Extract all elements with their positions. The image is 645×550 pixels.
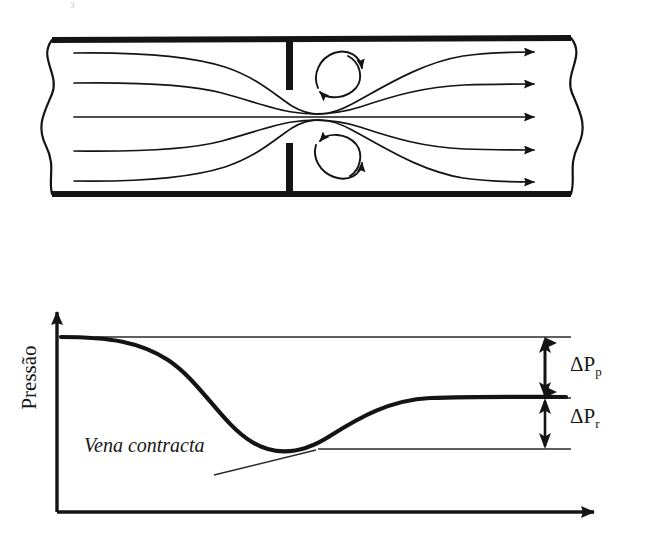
lower-vortex-arc-b	[320, 135, 360, 176]
delta-p-recovered-label: ΔPr	[570, 404, 600, 432]
chart-axes	[57, 312, 594, 512]
lower-recirculation-vortex	[315, 135, 362, 179]
delta-p-permanent-label: ΔPp	[570, 352, 602, 380]
vena-contracta-leader	[214, 450, 316, 475]
pipe-upper-wall	[52, 38, 571, 40]
figure-root: 3	[0, 0, 645, 550]
delta-p-recovered-arrow	[539, 398, 551, 449]
vena-contracta-leader-line	[214, 450, 316, 475]
streamline-2	[74, 83, 534, 114]
pipe-right-break-line	[570, 38, 582, 194]
pipe-left-break-line	[41, 40, 53, 194]
streamline-group	[74, 52, 534, 182]
delta-p-permanent-subscript: p	[595, 364, 602, 379]
orifice-plate-flow-diagram	[0, 0, 645, 260]
upper-vortex-arc-b	[320, 56, 360, 97]
delta-p-recovered-symbol: ΔP	[570, 404, 595, 428]
pressure-profile-chart	[0, 290, 645, 550]
streamline-4	[74, 120, 534, 151]
lower-vortex-arc-a	[315, 145, 362, 179]
upper-recirculation-vortex	[316, 51, 362, 97]
y-axis-label: Pressão	[17, 328, 42, 428]
vena-contracta-label: Vena contracta	[84, 434, 205, 457]
delta-p-permanent-arrow	[539, 337, 551, 398]
delta-p-permanent-symbol: ΔP	[570, 352, 595, 376]
orifice-plate-lower	[286, 143, 293, 194]
upper-vortex-arc-a	[316, 51, 362, 88]
delta-p-recovered-subscript: r	[595, 416, 599, 431]
orifice-plate-upper	[286, 40, 293, 90]
